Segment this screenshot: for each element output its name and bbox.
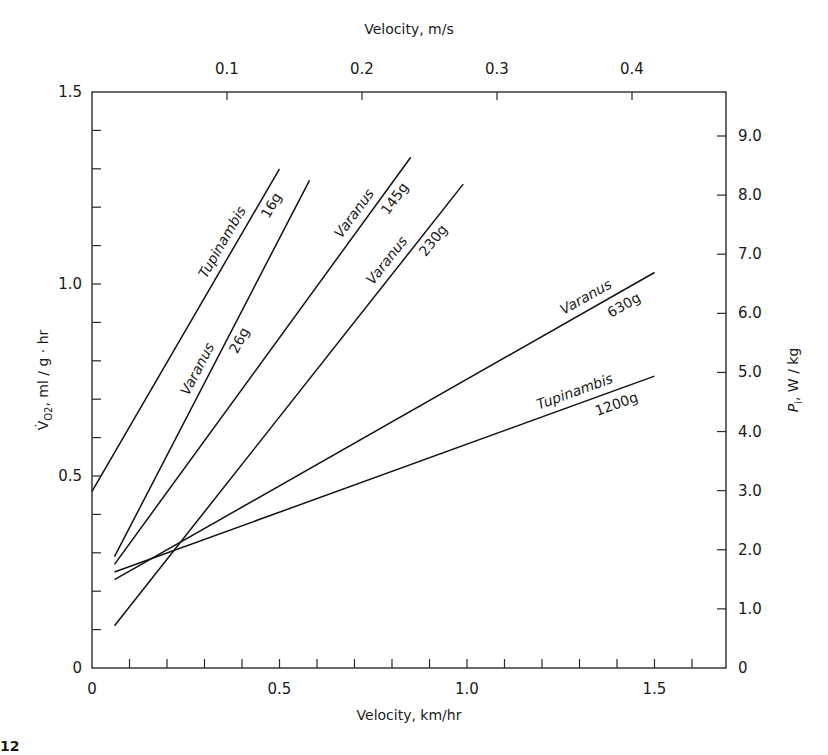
series-line-varanus-26g [115,180,310,556]
x-tick-label: 1.0 [455,680,479,698]
right-y-tick-label: 7.0 [738,245,762,263]
series-line-varanus-145g [115,157,411,564]
series-mass-label: 230g [416,221,451,259]
series-mass-label: 1200g [593,389,640,419]
series-line-varanus-230g [115,184,464,626]
right-y-tick-label: 1.0 [738,600,762,618]
right-y-tick-label: 9.0 [738,127,762,145]
right-y-axis-title-units: , W / kg [785,348,801,401]
top-x-tick-label: 0.1 [215,60,239,78]
y-tick-label: 0 [72,659,82,677]
series-mass-label: 145g [377,179,411,217]
top-x-tick-label: 0.2 [350,60,374,78]
y-axis-title-subscript: O2 [43,407,54,421]
right-y-tick-label: 8.0 [738,186,762,204]
series-mass-label: 26g [226,325,252,356]
top-x-axis-title: Velocity, m/s [364,21,453,37]
x-tick-label: 0 [87,680,97,698]
right-y-axis-title: Pi, W / kg [785,348,804,413]
right-y-tick-label: 0 [738,659,748,677]
series-line-varanus-630g [115,272,655,579]
series-line-tupinambis-16g [92,169,280,492]
y-tick-label: 1.0 [58,275,82,293]
y-tick-label: 0.5 [58,467,82,485]
right-y-tick-label: 6.0 [738,304,762,322]
y-axis-title-symbol: V̇ [35,420,51,430]
svg-text:Pi, W / kg: Pi, W / kg [785,348,804,413]
right-y-tick-label: 2.0 [738,541,762,559]
y-axis-title: V̇O2, ml / g · hr [35,329,54,430]
chart-svg: 00.51.01.50.10.20.30.400.51.01.501.02.03… [0,0,828,755]
x-tick-label: 0.5 [268,680,292,698]
figure-number-fragment: 12 [0,738,19,754]
top-x-tick-label: 0.3 [485,60,509,78]
series-mass-label: 16g [257,190,284,221]
x-tick-label: 1.5 [643,680,667,698]
right-y-tick-label: 3.0 [738,482,762,500]
x-axis-title: Velocity, km/hr [357,707,462,723]
y-axis-title-units: , ml / g · hr [35,329,51,406]
plot-axes: 00.51.01.50.10.20.30.400.51.01.501.02.03… [58,60,762,698]
series-line-tupinambis-1200g [115,376,655,572]
top-x-tick-label: 0.4 [620,60,644,78]
right-y-tick-label: 5.0 [738,363,762,381]
series-mass-label: 630g [604,289,643,321]
svg-text:V̇O2, ml / g · hr: V̇O2, ml / g · hr [35,329,54,430]
y-tick-label: 1.5 [58,83,82,101]
right-y-tick-label: 4.0 [738,423,762,441]
